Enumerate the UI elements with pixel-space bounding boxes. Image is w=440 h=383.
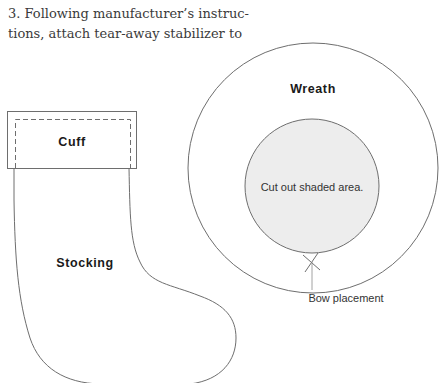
cut-out-label: Cut out shaded area. [261, 181, 364, 193]
stocking-label: Stocking [56, 256, 114, 270]
cuff-label: Cuff [58, 135, 86, 149]
bow-placement-label: Bow placement [308, 292, 383, 304]
wreath-pattern: Wreath Cut out shaded area. Bow placemen… [188, 43, 438, 304]
wreath-label: Wreath [290, 82, 336, 96]
pattern-diagram: Cuff Stocking Wreath Cut out shaded area… [0, 0, 440, 383]
